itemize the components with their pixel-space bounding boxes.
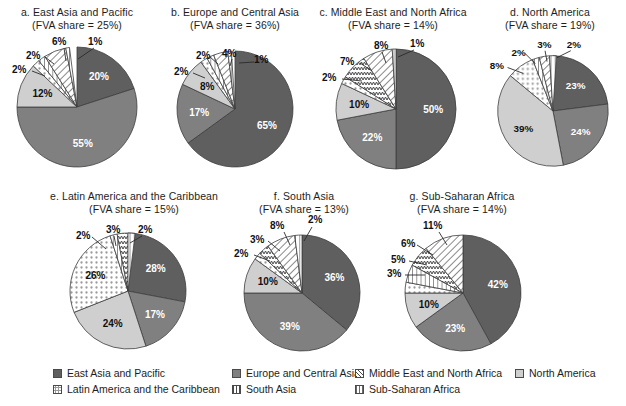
legend-swatch-sa xyxy=(232,385,241,394)
legend: East Asia and Pacific Europe and Central… xyxy=(0,362,626,406)
chart-e-label-na: 24% xyxy=(103,318,123,329)
chart-c-callout-saX: 1% xyxy=(410,38,425,49)
chart-e-subtitle: (FVA share = 15%) xyxy=(48,203,220,216)
chart-a-title: a. East Asia and Pacific (FVA share = 25… xyxy=(2,6,152,31)
chart-a-label-eca: 55% xyxy=(73,138,93,149)
chart-e-callout-sa: 2% xyxy=(76,230,91,241)
chart-f-callout-lac: 2% xyxy=(234,248,249,259)
pie-chart-b: b. Europe and Central Asia (FVA share = … xyxy=(160,6,310,181)
chart-d-title: d. North America (FVA share = 19%) xyxy=(476,6,624,31)
chart-e-title: e. Latin America and the Caribbean (FVA … xyxy=(48,190,220,215)
chart-c-label-na: 10% xyxy=(349,99,369,110)
chart-d-label-eca: 24% xyxy=(571,126,591,137)
chart-b-title: b. Europe and Central Asia (FVA share = … xyxy=(160,6,310,31)
chart-e-label-eap: 28% xyxy=(146,263,166,274)
chart-b-label-eca: 17% xyxy=(189,107,209,118)
legend-item-eap[interactable]: East Asia and Pacific xyxy=(53,367,165,379)
chart-f-pie: 36%39%10%2%3%8%2% xyxy=(228,215,380,365)
chart-f-callout-saX: 2% xyxy=(308,214,323,225)
chart-c-label-eca: 22% xyxy=(362,132,382,143)
chart-d-callout-saX: 2% xyxy=(567,39,581,50)
pie-chart-f: f. South Asia (FVA share = 13%) 36%39%10… xyxy=(228,190,380,365)
chart-f-subtitle: (FVA share = 13%) xyxy=(228,203,380,216)
legend-item-lac[interactable]: Latin America and the Caribbean xyxy=(53,383,220,395)
chart-b-title-line1: b. Europe and Central Asia xyxy=(171,6,299,18)
legend-label-mena: Middle East and North Africa xyxy=(369,367,502,379)
chart-b-callout-saX: 1% xyxy=(254,54,269,65)
chart-a-callout-lac: 2% xyxy=(12,64,27,75)
chart-f-callout-ssa: 3% xyxy=(250,234,265,245)
chart-c-pie: 50%22%10%2%7%8%1% xyxy=(313,31,473,181)
chart-c-label-eap: 50% xyxy=(423,104,443,115)
chart-a-svg: 20%55%12%2%2%6%1% xyxy=(2,31,152,181)
chart-a-subtitle: (FVA share = 25%) xyxy=(2,19,152,32)
chart-g-title-line1: g. Sub-Saharan Africa xyxy=(410,190,515,202)
chart-b-pie: 65%17%8%2%2%4%1% xyxy=(160,31,310,181)
pie-chart-c: c. Middle East and North Africa (FVA sha… xyxy=(313,6,473,181)
legend-item-mena[interactable]: Middle East and North Africa xyxy=(355,367,502,379)
legend-swatch-mena xyxy=(355,369,364,378)
legend-swatch-lac xyxy=(53,385,62,394)
legend-label-ssa: Sub-Saharan Africa xyxy=(369,383,460,395)
chart-c-title-line1: c. Middle East and North Africa xyxy=(319,6,466,18)
chart-f-callout-mena: 8% xyxy=(270,220,285,231)
legend-swatch-ssa xyxy=(355,385,364,394)
legend-label-lac: Latin America and the Caribbean xyxy=(67,383,220,395)
legend-label-eap: East Asia and Pacific xyxy=(67,367,165,379)
chart-b-subtitle: (FVA share = 36%) xyxy=(160,19,310,32)
chart-a-pie: 20%55%12%2%2%6%1% xyxy=(2,31,152,181)
legend-item-eca[interactable]: Europe and Central Asia xyxy=(232,367,360,379)
chart-g-callout-ssa: 6% xyxy=(401,238,416,249)
chart-d-svg: 23%24%39%8%2%3%2% xyxy=(476,31,624,181)
chart-d-callout-lac: 8% xyxy=(490,60,504,71)
chart-e-callout-mena: 2% xyxy=(138,224,153,235)
chart-g-label-eap: 42% xyxy=(488,279,508,290)
chart-d-subtitle: (FVA share = 19%) xyxy=(476,19,624,32)
pie-chart-a: a. East Asia and Pacific (FVA share = 25… xyxy=(2,6,152,181)
chart-a-callout-mena: 6% xyxy=(52,36,67,47)
chart-e-pie: 28%17%24%26%2%3%2% xyxy=(48,215,220,365)
chart-f-label-eca: 39% xyxy=(280,321,300,332)
chart-e-label-eca: 17% xyxy=(145,309,165,320)
chart-g-callout-mena: 11% xyxy=(423,220,443,231)
chart-g-subtitle: (FVA share = 14%) xyxy=(378,203,546,216)
chart-e-title-line1: e. Latin America and the Caribbean xyxy=(50,190,218,202)
legend-item-na[interactable]: North America xyxy=(515,367,596,379)
legend-swatch-eap xyxy=(53,369,62,378)
pie-chart-g: g. Sub-Saharan Africa (FVA share = 14%) … xyxy=(378,190,546,365)
chart-c-svg: 50%22%10%2%7%8%1% xyxy=(318,31,468,181)
chart-d-pie: 23%24%39%8%2%3%2% xyxy=(476,31,624,181)
chart-b-label-eap: 65% xyxy=(257,120,277,131)
chart-e-label-lac: 26% xyxy=(85,270,105,281)
legend-label-eca: Europe and Central Asia xyxy=(246,367,360,379)
chart-g-callout-lac: 3% xyxy=(387,268,402,279)
legend-swatch-eca xyxy=(232,369,241,378)
legend-item-sa[interactable]: South Asia xyxy=(232,383,296,395)
chart-d-label-eap: 23% xyxy=(566,80,586,91)
chart-f-svg: 36%39%10%2%3%8%2% xyxy=(228,215,378,365)
chart-g-title: g. Sub-Saharan Africa (FVA share = 14%) xyxy=(378,190,546,215)
chart-f-title-line1: f. South Asia xyxy=(274,190,334,202)
legend-swatch-na xyxy=(515,369,524,378)
pie-chart-d: d. North America (FVA share = 19%) 23%24… xyxy=(476,6,624,181)
chart-c-subtitle: (FVA share = 14%) xyxy=(313,19,473,32)
chart-b-callout-sa: 2% xyxy=(196,50,211,61)
figure-canvas: a. East Asia and Pacific (FVA share = 25… xyxy=(0,0,626,406)
chart-d-callout-sa: 2% xyxy=(512,47,526,58)
chart-g-pie: 42%23%10%3%5%6%11% xyxy=(378,215,546,365)
chart-b-label-na: 8% xyxy=(200,81,215,92)
chart-c-title: c. Middle East and North Africa (FVA sha… xyxy=(313,6,473,31)
chart-b-svg: 65%17%8%2%2%4%1% xyxy=(160,31,310,181)
chart-a-label-eap: 20% xyxy=(89,71,109,82)
chart-d-label-na: 39% xyxy=(514,123,534,134)
legend-item-ssa[interactable]: Sub-Saharan Africa xyxy=(355,383,460,395)
chart-e-svg: 28%17%24%26%2%3%2% xyxy=(54,215,204,365)
chart-d-title-line1: d. North America xyxy=(510,6,590,18)
chart-a-title-line1: a. East Asia and Pacific xyxy=(21,6,133,18)
chart-c-callout-ssa: 7% xyxy=(340,56,355,67)
chart-b-callout-lac: 2% xyxy=(174,66,189,77)
chart-f-title: f. South Asia (FVA share = 13%) xyxy=(228,190,380,215)
chart-f-label-na: 10% xyxy=(258,276,278,287)
chart-g-callout-sa: 5% xyxy=(391,254,406,265)
pie-chart-e: e. Latin America and the Caribbean (FVA … xyxy=(48,190,220,365)
